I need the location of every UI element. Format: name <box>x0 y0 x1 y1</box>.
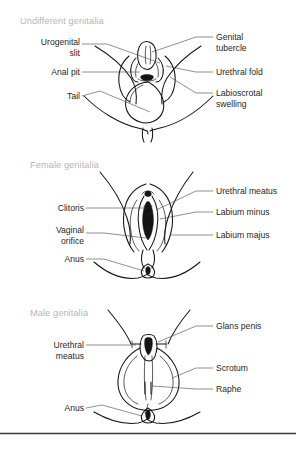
leader-labioscrotal-swelling <box>170 77 213 93</box>
label-vaginal-orifice-line2: orifice <box>61 236 84 246</box>
label-urogenital-slit-line2: slit <box>69 48 80 58</box>
anatomy-figure: Undifferent genitalia <box>0 0 296 456</box>
label-urethral-fold: Urethral fold <box>216 67 263 77</box>
panel-title-female: Female genitalia <box>30 160 100 170</box>
label-labioscrotal-swelling-line2: swelling <box>216 99 247 109</box>
label-labium-majus: Labium majus <box>216 230 270 240</box>
label-scrotum: Scrotum <box>216 363 248 373</box>
male-drawing <box>94 310 200 423</box>
panel-title-undifferentiated: Undifferent genitalia <box>20 16 104 26</box>
leader-glans-penis <box>158 326 213 342</box>
panel-undifferentiated: Undifferent genitalia <box>20 16 263 142</box>
label-tail: Tail <box>67 91 80 101</box>
label-urethral-meatus-male-line2: meatus <box>56 351 84 361</box>
panel-title-male: Male genitalia <box>30 308 89 318</box>
label-genital-tubercle-line2: tubercle <box>216 43 247 53</box>
leader-vaginal-orifice <box>86 233 146 238</box>
leader-anus <box>86 259 144 271</box>
label-vaginal-orifice-line1: Vaginal <box>56 225 84 235</box>
leader-anus-male <box>86 405 142 416</box>
panel-female: Female genitalia <box>30 160 277 278</box>
label-raphe: Raphe <box>216 384 242 394</box>
leader-genital-tubercle <box>152 37 213 52</box>
label-urogenital-slit-line1: Urogenital <box>41 37 80 47</box>
leader-tail <box>82 91 150 112</box>
leader-urogenital-slit <box>82 44 160 63</box>
label-urethral-meatus-female: Urethral meatus <box>216 186 277 196</box>
label-clitoris: Clitoris <box>58 203 84 213</box>
label-labium-minus: Labium minus <box>216 207 270 217</box>
label-glans-penis: Glans penis <box>216 321 261 331</box>
label-urethral-meatus-male-line1: Urethral <box>53 340 84 350</box>
label-genital-tubercle-line1: Genital <box>216 32 243 42</box>
female-drawing <box>94 172 200 278</box>
panel-male: Male genitalia <box>30 308 261 423</box>
label-anus-female: Anus <box>64 254 84 264</box>
leader-raphe <box>152 386 213 389</box>
label-anus-male: Anus <box>64 403 84 413</box>
label-labioscrotal-swelling-line1: Labioscrotal <box>216 88 262 98</box>
label-anal-pit: Anal pit <box>51 67 80 77</box>
